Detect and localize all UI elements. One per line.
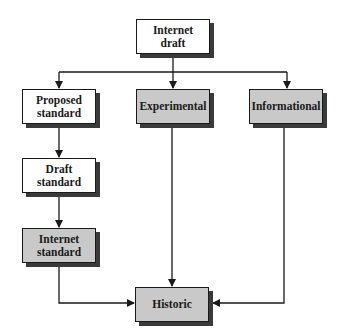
node-informational-label: Informational xyxy=(252,100,321,113)
node-draft-standard-line2: standard xyxy=(37,176,81,189)
node-historic-label: Historic xyxy=(152,298,192,311)
node-internet-draft: Internet draft xyxy=(136,19,210,54)
node-draft-standard: Draft standard xyxy=(22,158,96,193)
node-internet-standard: Internet standard xyxy=(22,228,96,263)
node-draft-standard-line1: Draft xyxy=(37,163,81,176)
node-proposed-standard-line2: standard xyxy=(36,107,82,120)
node-internet-standard-line1: Internet xyxy=(37,233,81,246)
node-experimental: Experimental xyxy=(136,89,210,124)
node-experimental-label: Experimental xyxy=(139,100,206,113)
node-informational: Informational xyxy=(249,89,323,124)
edge-internet-standard-to-historic xyxy=(59,267,134,303)
node-internet-draft-line2: draft xyxy=(153,37,193,50)
edge-informational-to-historic xyxy=(213,128,284,303)
node-proposed-standard: Proposed standard xyxy=(22,89,96,124)
node-internet-standard-line2: standard xyxy=(37,246,81,259)
node-internet-draft-line1: Internet xyxy=(153,24,193,37)
rfc-maturity-diagram: Internet draft Proposed standard Experim… xyxy=(0,0,339,335)
node-historic: Historic xyxy=(135,287,209,322)
node-proposed-standard-line1: Proposed xyxy=(36,94,82,107)
